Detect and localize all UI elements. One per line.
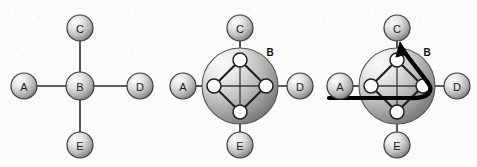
node-e-label: E — [393, 140, 401, 152]
node-c[interactable]: C — [67, 15, 93, 41]
figure-canvas: A C D E B — [0, 0, 477, 167]
node-a-label: A — [20, 81, 28, 93]
node-c[interactable]: C — [227, 15, 253, 41]
node-c-label: C — [393, 23, 401, 35]
node-c[interactable]: C — [384, 15, 410, 41]
node-e-label: E — [76, 140, 84, 152]
node-d[interactable]: D — [127, 73, 153, 99]
inner-node-right[interactable] — [259, 79, 273, 93]
node-d[interactable]: D — [287, 73, 313, 99]
panel-path: A C D E B — [317, 0, 477, 167]
node-c-label: C — [236, 23, 244, 35]
super-node-b-label: B — [423, 47, 430, 58]
inner-node-left[interactable] — [207, 79, 221, 93]
node-e-label: E — [236, 140, 244, 152]
node-a[interactable]: A — [11, 73, 37, 99]
node-e[interactable]: E — [67, 132, 93, 158]
panel-abstract: A C D E B — [0, 0, 160, 167]
node-a[interactable]: A — [170, 73, 196, 99]
node-b-center[interactable]: B — [66, 72, 94, 100]
node-c-label: C — [76, 23, 84, 35]
node-e[interactable]: E — [227, 132, 253, 158]
node-a-label: A — [336, 81, 344, 93]
node-d-label: D — [296, 81, 304, 93]
node-e[interactable]: E — [384, 132, 410, 158]
node-d-label: D — [453, 81, 461, 93]
inner-node-bottom[interactable] — [233, 105, 247, 119]
node-a-label: A — [179, 81, 187, 93]
node-d-label: D — [136, 81, 144, 93]
inner-node-top[interactable] — [233, 53, 247, 67]
panel-expanded: A C D E B — [160, 0, 320, 167]
super-node-b-label: B — [266, 47, 273, 58]
node-d[interactable]: D — [444, 73, 470, 99]
node-a[interactable]: A — [327, 73, 353, 99]
inner-node-left[interactable] — [364, 79, 378, 93]
inner-node-bottom[interactable] — [390, 105, 404, 119]
node-b-label: B — [76, 81, 84, 93]
